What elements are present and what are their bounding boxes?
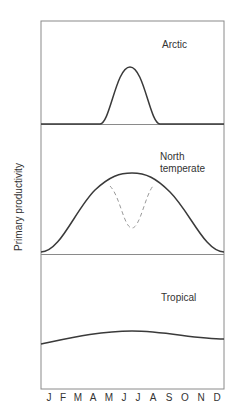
label-tropical: Tropical [161,292,196,303]
month-label: S [166,392,173,403]
chart-frame [41,21,224,389]
productivity-chart: Arctic North temperate Tropical Primary … [0,0,239,419]
label-temperate: temperate [160,163,205,174]
y-axis-label: Primary productivity [13,163,24,251]
month-label: A [150,392,157,403]
north-temperate-dashed-dip [110,186,153,228]
month-label: J [136,392,141,403]
label-north: North [160,151,184,162]
tropical-curve [41,331,224,344]
label-arctic: Arctic [162,39,187,50]
month-label: M [105,392,113,403]
month-label: N [197,392,204,403]
month-label: F [60,392,66,403]
arctic-curve [41,67,224,124]
north-temperate-curve [41,173,224,252]
month-label: J [122,392,127,403]
month-label: O [181,392,189,403]
month-label: D [213,392,220,403]
x-axis-months: J F M A M J J A S O N D [47,392,221,403]
month-label: J [47,392,52,403]
month-label: M [74,392,82,403]
month-label: A [90,392,97,403]
